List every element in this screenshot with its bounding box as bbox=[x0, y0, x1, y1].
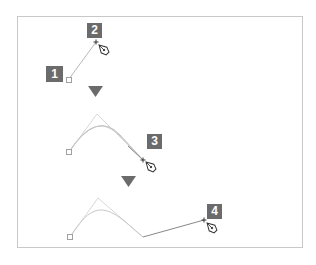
anchor-point-icon bbox=[67, 78, 72, 83]
direction-handles bbox=[70, 198, 143, 237]
plus-cursor-icon bbox=[202, 218, 207, 223]
pen-tool-icon bbox=[96, 42, 110, 56]
stage-3 bbox=[68, 198, 219, 240]
pen-tool-icon bbox=[143, 159, 157, 173]
step-label-4: 4 bbox=[207, 204, 222, 219]
stage-1 bbox=[67, 40, 111, 83]
down-arrow-icon bbox=[88, 86, 103, 97]
curve-segment bbox=[69, 126, 143, 160]
stage-2 bbox=[67, 114, 158, 173]
direction-line bbox=[69, 42, 96, 79]
down-arrow-icon bbox=[121, 176, 136, 187]
step-label-3: 3 bbox=[147, 134, 162, 149]
curve-segment-smooth bbox=[69, 126, 143, 160]
step-label-1: 1 bbox=[46, 66, 63, 82]
direction-line-active bbox=[128, 146, 143, 160]
anchor-point-icon bbox=[68, 235, 73, 240]
curve-segment bbox=[70, 210, 143, 237]
pen-tool-icon bbox=[204, 220, 218, 234]
straight-segment bbox=[143, 220, 204, 237]
anchor-point-icon bbox=[67, 150, 72, 155]
step-label-2: 2 bbox=[87, 23, 102, 38]
pen-path-diagram bbox=[0, 0, 316, 265]
